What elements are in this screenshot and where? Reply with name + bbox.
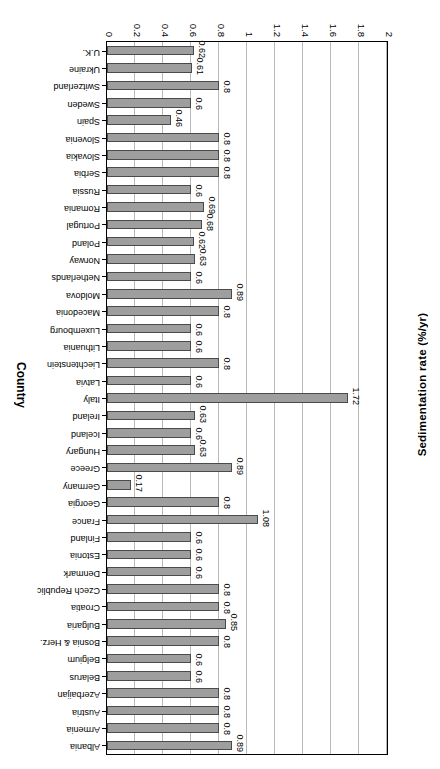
bar-value-label: 0.6: [194, 97, 203, 110]
bar-row: 0.46: [107, 115, 387, 125]
value-tick-label: 2: [385, 32, 395, 37]
bar: [107, 324, 191, 334]
bar-chart-figure: Sedimentation rate (%/yr) Country 00.20.…: [0, 0, 440, 769]
category-label: Liechtenstein: [47, 360, 100, 369]
bar-value-label: 0.8: [222, 584, 231, 597]
bar-value-label: 0.8: [222, 80, 231, 93]
value-tick-label: 0.4: [161, 24, 171, 37]
bar: [107, 46, 194, 56]
category-label: Lithuania: [63, 343, 100, 352]
category-label: Iceland: [71, 430, 100, 439]
bar: [107, 723, 219, 733]
bar: [107, 463, 232, 473]
category-label: Azerbaijan: [57, 690, 100, 699]
bar-row: 0.8: [107, 359, 387, 369]
bar-row: 0.68: [107, 220, 387, 230]
category-label: Portugal: [66, 221, 100, 230]
bar-row: 0.8: [107, 306, 387, 316]
category-tick: [102, 259, 106, 260]
bar: [107, 341, 191, 351]
category-tick: [102, 659, 106, 660]
chart-inner: Sedimentation rate (%/yr) Country 00.20.…: [0, 0, 440, 769]
category-label: U.K.: [82, 48, 100, 57]
bar-row: 0.6: [107, 341, 387, 351]
category-label: Romania: [64, 204, 100, 213]
category-tick: [102, 693, 106, 694]
category-tick: [102, 68, 106, 69]
bar: [107, 98, 191, 108]
value-tick-label: 1.2: [273, 24, 283, 37]
bar-row: 0.6: [107, 98, 387, 108]
bar-row: 0.63: [107, 411, 387, 421]
category-tick: [102, 485, 106, 486]
bar-value-label: 0.8: [222, 601, 231, 614]
category-tick: [102, 85, 106, 86]
bar-row: 0.8: [107, 81, 387, 91]
bar: [107, 359, 219, 369]
bar-row: 0.8: [107, 584, 387, 594]
bar-row: 0.8: [107, 723, 387, 733]
category-label: Estonia: [70, 551, 100, 560]
bar-value-label: 0.89: [235, 457, 244, 475]
bar-value-label: 0.8: [222, 132, 231, 145]
bar-row: 0.6: [107, 376, 387, 386]
value-tick-label: 0: [105, 32, 115, 37]
bar-row: 0.63: [107, 254, 387, 264]
bar-row: 0.61: [107, 63, 387, 73]
bar-value-label: 1.08: [261, 509, 270, 527]
category-tick: [102, 276, 106, 277]
value-tick-label: 1.8: [357, 24, 367, 37]
category-tick: [102, 520, 106, 521]
bar-row: 0.6: [107, 654, 387, 664]
bar: [107, 81, 219, 91]
bar: [107, 289, 232, 299]
bar-row: 1.08: [107, 515, 387, 525]
category-tick: [102, 589, 106, 590]
bar-value-label: 0.8: [222, 306, 231, 319]
value-tick-label: 1: [245, 32, 255, 37]
category-tick: [102, 329, 106, 330]
bar: [107, 115, 171, 125]
category-label: Hungary: [66, 447, 100, 456]
category-tick: [102, 537, 106, 538]
category-axis-labels: AlbaniaArmeniaAustriaAzerbaijanBelarusBe…: [32, 43, 106, 755]
bar-value-label: 0.6: [194, 532, 203, 545]
bar-row: 0.62: [107, 237, 387, 247]
bar: [107, 515, 258, 525]
bar: [107, 376, 191, 386]
bar-value-label: 0.6: [194, 671, 203, 684]
category-label: Spain: [77, 117, 100, 126]
category-label: Denmark: [63, 569, 100, 578]
bar-value-label: 0.6: [194, 549, 203, 562]
value-tick-label: 0.6: [189, 24, 199, 37]
bar-row: 0.6: [107, 428, 387, 438]
bar: [107, 220, 202, 230]
bar-value-label: 0.8: [222, 636, 231, 649]
category-tick: [102, 728, 106, 729]
bar: [107, 619, 226, 629]
category-label: Germany: [63, 482, 100, 491]
bar-value-label: 0.68: [205, 214, 214, 232]
bar: [107, 445, 195, 455]
category-tick: [102, 207, 106, 208]
category-tick: [102, 294, 106, 295]
category-tick: [102, 624, 106, 625]
bar: [107, 636, 219, 646]
bar: [107, 654, 191, 664]
category-tick: [102, 172, 106, 173]
category-tick: [102, 155, 106, 156]
bar-value-label: 0.8: [222, 167, 231, 180]
bar-row: 0.6: [107, 185, 387, 195]
bar: [107, 706, 219, 716]
category-tick: [102, 554, 106, 555]
bar: [107, 550, 191, 560]
bar-row: 0.89: [107, 289, 387, 299]
category-label: Bosnia & Herz.: [40, 638, 100, 647]
bar-value-label: 0.63: [198, 249, 207, 267]
bar-value-label: 0.89: [235, 735, 244, 753]
bar-row: 0.6: [107, 550, 387, 560]
bar-row: 0.6: [107, 671, 387, 681]
bar: [107, 393, 348, 403]
category-label: Ukraine: [69, 65, 100, 74]
bar: [107, 185, 191, 195]
